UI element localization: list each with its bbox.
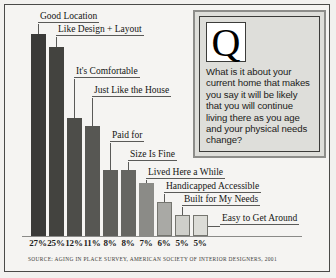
label-good-location-text: Good Location xyxy=(38,11,99,23)
question-box: Q What is it about your current home tha… xyxy=(193,10,326,158)
label-easy-to-get-around-text: Easy to Get Around xyxy=(220,213,299,225)
label-built-for-my-needs: Built for My Needs xyxy=(182,194,260,206)
bar-handicapped-accessible xyxy=(157,202,172,236)
leader-lived-here-a-while xyxy=(146,180,147,183)
bar-built-for-my-needs xyxy=(175,215,190,236)
leader-just-like-the-house xyxy=(92,98,93,126)
source-note: Source: Aging In Place Survey, American … xyxy=(28,256,277,262)
label-paid-for: Paid for xyxy=(110,130,144,142)
bar-good-location xyxy=(31,34,46,236)
label-just-like-the-house-text: Just Like the House xyxy=(92,85,171,97)
bar-easy-to-get-around xyxy=(193,215,208,236)
bar-its-comfortable xyxy=(67,118,82,236)
leader-size-is-fine xyxy=(128,162,129,170)
question-text: What is it about your current home that … xyxy=(206,66,313,146)
label-just-like-the-house: Just Like the House xyxy=(92,85,171,97)
label-size-is-fine: Size Is Fine xyxy=(128,149,177,161)
label-its-comfortable: It's Comfortable xyxy=(74,66,140,78)
label-paid-for-text: Paid for xyxy=(110,130,144,142)
bar-like-design-layout xyxy=(49,47,64,236)
label-size-is-fine-text: Size Is Fine xyxy=(128,149,177,161)
chart-figure: Good Location Like Design + Layout It's … xyxy=(0,0,336,278)
bar-just-like-the-house xyxy=(85,126,100,236)
label-its-comfortable-text: It's Comfortable xyxy=(74,66,140,78)
label-like-design-layout: Like Design + Layout xyxy=(56,24,144,36)
leader-paid-for xyxy=(110,143,111,170)
leader-built-for-my-needs xyxy=(182,207,183,215)
bar-paid-for xyxy=(103,170,118,236)
x-axis-baseline xyxy=(22,236,302,237)
label-handicapped-accessible: Handicapped Accessible xyxy=(164,181,261,193)
question-marker-letter: Q xyxy=(212,26,241,60)
question-marker: Q xyxy=(206,22,246,62)
bar-lived-here-a-while xyxy=(139,183,154,236)
leader-easy-to-get-around-h xyxy=(208,226,220,227)
label-built-for-my-needs-text: Built for My Needs xyxy=(182,194,260,206)
leader-like-design-layout xyxy=(56,37,57,47)
label-easy-to-get-around: Easy to Get Around xyxy=(220,213,299,225)
question-box-inner: Q What is it about your current home tha… xyxy=(199,16,320,152)
label-lived-here-a-while: Lived Here a While xyxy=(146,167,225,179)
bar-size-is-fine xyxy=(121,170,136,236)
label-like-design-layout-text: Like Design + Layout xyxy=(56,24,144,36)
leader-its-comfortable xyxy=(74,79,75,118)
value-label-easy-to-get-around: 5% xyxy=(188,238,212,248)
label-good-location: Good Location xyxy=(38,11,99,23)
leader-good-location xyxy=(38,24,39,34)
label-lived-here-a-while-text: Lived Here a While xyxy=(146,167,225,179)
label-handicapped-accessible-text: Handicapped Accessible xyxy=(164,181,261,193)
leader-handicapped-accessible xyxy=(164,194,165,202)
